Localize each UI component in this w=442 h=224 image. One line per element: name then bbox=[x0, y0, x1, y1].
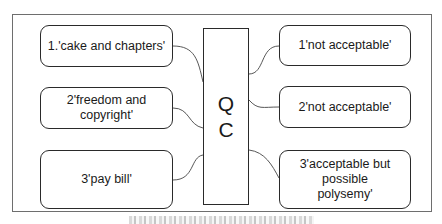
connector-output-3 bbox=[249, 150, 279, 178]
output-label-1: 1'not acceptable' bbox=[298, 38, 391, 53]
output-box-1: 1'not acceptable' bbox=[279, 25, 411, 66]
connector-output-2 bbox=[249, 100, 279, 107]
input-label-2: 2'freedom and copyright' bbox=[41, 93, 172, 123]
output-label-3: 3'acceptable but possible polysemy' bbox=[298, 157, 392, 202]
input-box-3: 3'pay bill' bbox=[40, 150, 173, 209]
caption-text-cropped bbox=[129, 216, 314, 224]
input-box-2: 2'freedom and copyright' bbox=[40, 87, 173, 129]
qc-letter-q: Q bbox=[218, 91, 234, 117]
connector-output-1 bbox=[249, 46, 279, 74]
input-box-1: 1.'cake and chapters' bbox=[40, 25, 173, 67]
qc-box: Q C bbox=[203, 28, 249, 205]
input-label-3: 3'pay bill' bbox=[81, 172, 132, 187]
connector-input-1 bbox=[173, 46, 203, 82]
connector-input-3 bbox=[173, 155, 203, 180]
output-label-2: 2'not acceptable' bbox=[298, 100, 391, 115]
connector-input-2 bbox=[173, 108, 203, 128]
qc-letter-c: C bbox=[218, 117, 233, 143]
output-box-3: 3'acceptable but possible polysemy' bbox=[279, 150, 411, 209]
input-label-1: 1.'cake and chapters' bbox=[48, 39, 165, 54]
figure-caption-cropped bbox=[0, 214, 442, 224]
output-box-2: 2'not acceptable' bbox=[279, 86, 411, 128]
